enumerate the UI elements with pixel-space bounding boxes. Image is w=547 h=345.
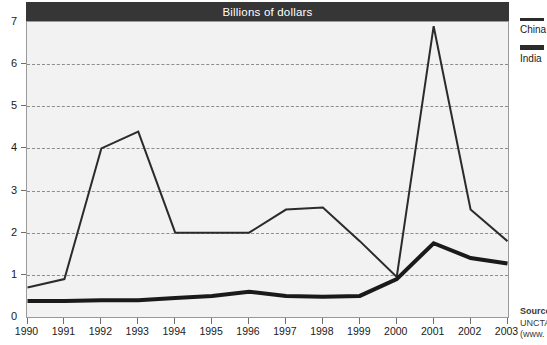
chart-figure: Billions of dollars 01234567 19901991199… [0, 0, 547, 345]
x-tick-mark-1990 [27, 318, 28, 324]
x-tick-label-1998: 1998 [310, 326, 333, 337]
legend-label-china: China [520, 24, 547, 35]
source-organization: UNCTAD [520, 318, 547, 330]
x-tick-mark-2000 [396, 318, 397, 324]
x-tick-mark-1993 [137, 318, 138, 324]
y-tick-label-3: 3 [11, 184, 17, 195]
series-line-india [28, 243, 508, 301]
x-tick-mark-1998 [322, 318, 323, 324]
y-tick-label-5: 5 [11, 100, 17, 111]
x-tick-mark-1996 [248, 318, 249, 324]
x-tick-label-2002: 2002 [458, 326, 481, 337]
x-tick-mark-2001 [433, 318, 434, 324]
x-tick-label-1994: 1994 [163, 326, 186, 337]
x-tick-mark-1999 [359, 318, 360, 324]
x-tick-label-1993: 1993 [126, 326, 149, 337]
y-tick-label-7: 7 [11, 16, 17, 27]
x-tick-mark-1991 [63, 318, 64, 324]
legend-swatch-china [520, 18, 544, 21]
legend-label-india: India [520, 53, 547, 64]
y-tick-label-6: 6 [11, 58, 17, 69]
series-line-china [28, 26, 508, 287]
x-tick-label-2001: 2001 [421, 326, 444, 337]
source-url: (www. [520, 329, 547, 341]
x-tick-mark-1995 [211, 318, 212, 324]
chart-legend: ChinaIndia [520, 18, 547, 74]
y-tick-label-2: 2 [11, 226, 17, 237]
legend-entry-china[interactable]: China [520, 18, 547, 35]
legend-entry-india[interactable]: India [520, 45, 547, 64]
x-tick-label-2000: 2000 [384, 326, 407, 337]
x-tick-label-1997: 1997 [273, 326, 296, 337]
x-tick-mark-1992 [100, 318, 101, 324]
x-tick-mark-1997 [285, 318, 286, 324]
legend-swatch-india [520, 45, 544, 50]
series-layer [27, 22, 508, 317]
x-tick-label-1992: 1992 [89, 326, 112, 337]
x-tick-label-1995: 1995 [199, 326, 222, 337]
y-tick-label-4: 4 [11, 142, 17, 153]
source-note: Source: UNCTAD (www. [520, 306, 547, 341]
y-axis: 01234567 [0, 21, 26, 318]
x-tick-mark-2003 [507, 318, 508, 324]
plot-inner [27, 22, 508, 317]
x-tick-mark-2002 [470, 318, 471, 324]
x-axis: 1990199119921993199419951996199719981999… [26, 318, 509, 345]
x-tick-label-1990: 1990 [15, 326, 38, 337]
y-tick-label-1: 1 [11, 268, 17, 279]
x-tick-label-2003: 2003 [495, 326, 518, 337]
x-tick-label-1991: 1991 [52, 326, 75, 337]
chart-title-bar: Billions of dollars [26, 2, 509, 21]
x-tick-label-1996: 1996 [236, 326, 259, 337]
x-tick-mark-1994 [174, 318, 175, 324]
y-tick-label-0: 0 [11, 311, 17, 322]
source-label: Source: [520, 306, 547, 318]
chart-title: Billions of dollars [222, 6, 312, 18]
plot-area [26, 21, 509, 318]
x-tick-label-1999: 1999 [347, 326, 370, 337]
